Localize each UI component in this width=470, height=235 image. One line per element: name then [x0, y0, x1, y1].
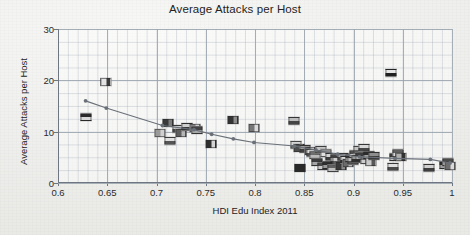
x-tick-mark: [452, 183, 453, 186]
x-tick-label: 0.65: [98, 187, 117, 198]
plot-area: [58, 29, 452, 183]
trend-line-marker: [210, 132, 214, 136]
trend-line-path: [86, 101, 450, 163]
y-tick-label: 0: [36, 178, 54, 189]
trend-line-marker: [104, 106, 108, 110]
y-tick-label: 20: [36, 75, 54, 86]
chart-title: Average Attacks per Host: [0, 3, 470, 15]
trend-line-marker: [161, 124, 165, 128]
gridline-horizontal: [58, 183, 452, 184]
trend-line-marker: [293, 144, 297, 148]
y-axis-title: Average Attacks per Host: [18, 37, 29, 187]
x-tick-label: 1: [449, 187, 454, 198]
x-tick-label: 0.8: [248, 187, 261, 198]
trend-line-marker: [252, 141, 256, 145]
x-tick-label: 0.75: [197, 187, 216, 198]
trend-line-marker: [84, 99, 88, 103]
x-tick-label: 0.95: [394, 187, 413, 198]
trend-line-marker: [448, 161, 452, 165]
scatter-chart: Average Attacks per Host 0.60.650.70.750…: [0, 0, 470, 235]
trend-line-marker: [428, 157, 432, 161]
y-tick-label: 10: [36, 126, 54, 137]
y-tick-label: 30: [36, 24, 54, 35]
x-tick-label: 0.7: [150, 187, 163, 198]
trend-line-layer: [58, 29, 452, 183]
trend-line-marker: [231, 137, 235, 141]
trend-line-marker: [314, 148, 318, 152]
x-tick-label: 0.9: [347, 187, 360, 198]
trend-line-marker: [336, 152, 340, 156]
x-axis-title: HDI Edu Index 2011: [58, 205, 452, 216]
trend-line-marker: [393, 156, 397, 160]
trend-line-marker: [358, 155, 362, 159]
trend-line-marker: [192, 128, 196, 132]
x-tick-label: 0.85: [295, 187, 314, 198]
x-tick-label: 0.6: [51, 187, 64, 198]
y-tick-mark: [54, 183, 58, 184]
